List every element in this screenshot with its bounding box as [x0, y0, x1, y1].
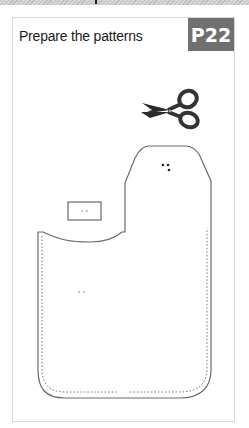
pattern-drawing [0, 0, 249, 428]
pattern-outline [38, 146, 211, 398]
pocket-piece [68, 202, 101, 220]
scissors-icon [141, 88, 200, 130]
stitch-line [42, 228, 207, 392]
